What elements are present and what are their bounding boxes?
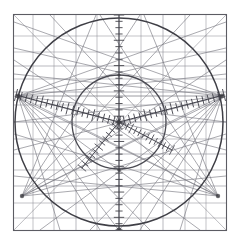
projection-diagram [0,0,239,240]
node-mark [20,194,24,198]
node-mark [16,94,21,99]
node-mark [117,120,121,124]
node-mark [220,94,225,99]
diagram-page [0,0,239,240]
node-mark [117,168,121,172]
node-mark [117,73,120,76]
node-mark [216,194,220,198]
